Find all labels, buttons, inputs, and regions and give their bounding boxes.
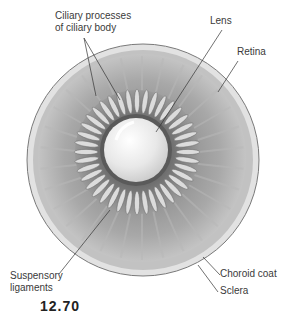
label-ciliary-line1: Ciliary processes (55, 10, 131, 22)
label-retina: Retina (237, 46, 266, 58)
label-ciliary-line2: of ciliary body (55, 22, 131, 34)
leader-sclera (198, 265, 218, 292)
leader-choroid (203, 257, 220, 275)
figure-number: 12.70 (40, 298, 80, 314)
label-sclera: Sclera (220, 285, 248, 297)
label-suspensory-line1: Suspensory (10, 270, 63, 282)
label-lens: Lens (210, 15, 232, 27)
label-choroid-coat: Choroid coat (220, 268, 277, 280)
label-ciliary-processes: Ciliary processes of ciliary body (55, 10, 131, 34)
label-suspensory-line2: ligaments (10, 282, 63, 294)
label-suspensory-ligaments: Suspensory ligaments (10, 270, 63, 294)
lens (104, 118, 168, 182)
